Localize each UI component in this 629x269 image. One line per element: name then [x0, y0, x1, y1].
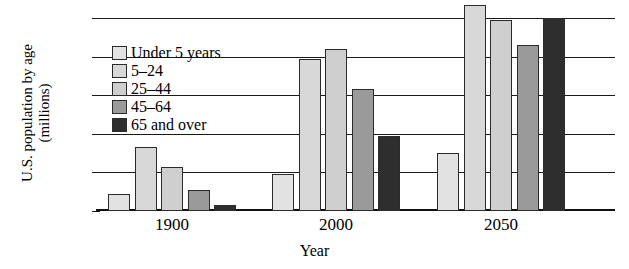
legend-label: 45–64 — [131, 99, 171, 115]
legend-item: 25–44 — [112, 80, 221, 98]
legend-item: 5–24 — [112, 62, 221, 80]
legend-swatch — [112, 64, 127, 78]
bar — [517, 45, 539, 211]
x-axis-tick-label: 2000 — [291, 216, 381, 234]
legend-swatch — [112, 100, 127, 114]
bar — [437, 153, 459, 211]
bar — [352, 89, 374, 211]
bar — [188, 190, 210, 211]
bar — [325, 49, 347, 211]
legend-label: 25–44 — [131, 81, 171, 97]
y-axis-tick-mark — [92, 95, 100, 96]
y-axis-title: U.S. population by age (millions) — [19, 13, 53, 213]
legend-item: 45–64 — [112, 98, 221, 116]
x-axis-title: Year — [0, 242, 629, 259]
y-axis-title-line1: U.S. population by age — [19, 13, 36, 213]
bar — [272, 174, 294, 211]
x-axis-tick-label: 2050 — [456, 216, 546, 234]
bar — [161, 167, 183, 211]
x-axis-tick-label: 1900 — [127, 216, 217, 234]
y-axis-tick-mark — [92, 211, 100, 212]
y-axis-tick-mark — [92, 18, 100, 19]
y-axis-tick-mark — [92, 172, 100, 173]
legend-item: Under 5 years — [112, 44, 221, 62]
legend-label: Under 5 years — [131, 45, 221, 61]
legend-label: 65 and over — [131, 117, 207, 133]
bar — [135, 147, 157, 211]
bar — [464, 5, 486, 212]
legend-swatch — [112, 46, 127, 60]
legend-swatch — [112, 118, 127, 132]
bar-chart: U.S. population by age (millions) 020406… — [0, 0, 629, 269]
legend-item: 65 and over — [112, 116, 221, 134]
y-axis-tick-mark — [92, 134, 100, 135]
bar — [108, 194, 130, 211]
y-axis-tick-mark — [92, 57, 100, 58]
bar — [543, 18, 565, 211]
gridline — [100, 18, 615, 19]
bar — [299, 59, 321, 211]
legend-label: 5–24 — [131, 63, 163, 79]
bar — [214, 205, 236, 211]
chart-legend: Under 5 years5–2425–4445–6465 and over — [112, 44, 221, 134]
y-axis-title-line2: (millions) — [36, 13, 53, 213]
bar — [378, 136, 400, 211]
bar — [490, 20, 512, 211]
legend-swatch — [112, 82, 127, 96]
